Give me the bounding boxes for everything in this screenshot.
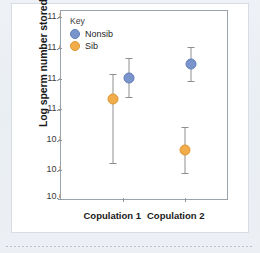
error-bar-sib-copulation-1 [113, 74, 114, 164]
y-tick-mark [58, 79, 62, 80]
x-axis-label-copulation-1: Copulation 1 [83, 210, 141, 221]
page-dotted-divider [6, 246, 254, 247]
legend-swatch-sib-icon [70, 41, 80, 51]
legend-item-sib[interactable]: Sib [70, 41, 113, 51]
error-bar-cap-bottom [126, 97, 133, 98]
scanned-page-background: Log sperm number stored by female 11.8 1… [0, 0, 260, 253]
x-tick-mark [123, 198, 124, 202]
legend-label-sib: Sib [85, 41, 98, 51]
y-tick-mark [58, 170, 62, 171]
error-bar-cap-bottom [110, 163, 117, 164]
x-tick-mark [185, 198, 186, 202]
error-bar-cap-bottom [182, 173, 189, 174]
y-tick-mark [58, 140, 62, 141]
chart-legend: Key Nonsib Sib [70, 16, 113, 53]
x-axis-labels: Copulation 1 Copulation 2 [60, 210, 228, 221]
y-tick-mark [58, 109, 62, 110]
error-bar-cap-top [126, 58, 133, 59]
y-tick-mark [58, 17, 62, 18]
plot-area: Key Nonsib Sib [61, 11, 227, 199]
legend-swatch-nonsib-icon [70, 29, 80, 39]
figure-card: Log sperm number stored by female 11.8 1… [12, 4, 248, 232]
data-point-sib-copulation-1[interactable] [108, 94, 119, 105]
y-tick-mark [58, 48, 62, 49]
error-bar-cap-top [182, 127, 189, 128]
legend-title: Key [70, 16, 113, 26]
data-point-nonsib-copulation-2[interactable] [186, 59, 197, 70]
legend-item-nonsib[interactable]: Nonsib [70, 29, 113, 39]
legend-label-nonsib: Nonsib [85, 29, 113, 39]
error-bar-cap-top [188, 47, 195, 48]
data-point-nonsib-copulation-1[interactable] [124, 73, 135, 84]
x-axis-label-copulation-2: Copulation 2 [147, 210, 205, 221]
data-point-sib-copulation-2[interactable] [180, 145, 191, 156]
error-bar-cap-top [110, 74, 117, 75]
error-bar-cap-bottom [188, 81, 195, 82]
plot-frame: Key Nonsib Sib [60, 10, 228, 200]
y-tick-mark [58, 199, 62, 200]
